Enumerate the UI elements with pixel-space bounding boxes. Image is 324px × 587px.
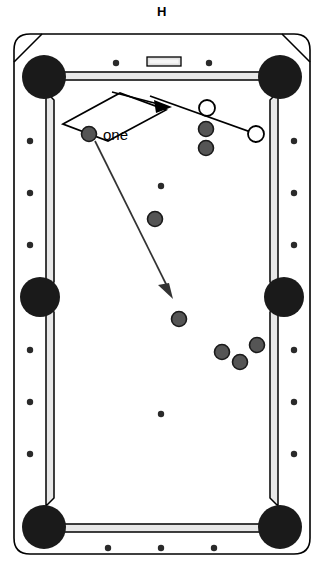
cushion-left-lower [46, 304, 54, 506]
rail-diamond [291, 242, 297, 248]
rail-diamond [206, 60, 212, 66]
bed-spot [158, 411, 164, 417]
ball-cluster-left[interactable] [215, 345, 230, 360]
cushion-top [50, 72, 274, 80]
rail-diamond [27, 347, 33, 353]
table-nameplate-inner [150, 60, 179, 64]
bottom-right-corner-pocket[interactable] [258, 505, 302, 549]
rail-diamond [27, 242, 33, 248]
rail-diamond [27, 451, 33, 457]
rail-diamond [27, 399, 33, 405]
cushion-left-upper [46, 92, 54, 290]
ball-object-lower[interactable] [199, 141, 214, 156]
rail-diamond [27, 138, 33, 144]
right-side-pocket[interactable] [264, 277, 304, 317]
cushion-right-upper [270, 92, 278, 290]
ball-one[interactable] [82, 127, 97, 142]
ghost-ball-contact [199, 100, 215, 116]
rail-diamond [291, 347, 297, 353]
rail-diamond [105, 545, 111, 551]
pool-diagram-root: H [0, 0, 324, 587]
cushion-bottom [50, 524, 274, 532]
rail-diamond [27, 190, 33, 196]
rail-diamond [211, 545, 217, 551]
left-side-pocket[interactable] [20, 277, 60, 317]
rail-diamond [291, 451, 297, 457]
ball-mid[interactable] [148, 212, 163, 227]
ball-cluster-right[interactable] [250, 338, 265, 353]
top-right-corner-pocket[interactable] [258, 55, 302, 99]
rail-diamond [113, 60, 119, 66]
cushion-right-lower [270, 304, 278, 506]
ghost-ball-cue [248, 126, 264, 142]
ball-object-upper[interactable] [199, 122, 214, 137]
rail-diamond [158, 545, 164, 551]
pool-table-diagram: one [0, 0, 324, 587]
bottom-left-corner-pocket[interactable] [22, 505, 66, 549]
ball-one-label: one [103, 126, 128, 143]
top-left-corner-pocket[interactable] [22, 55, 66, 99]
rail-diamond [291, 138, 297, 144]
bed-spot [158, 183, 164, 189]
table-bed [44, 72, 280, 516]
ball-cluster-mid[interactable] [233, 355, 248, 370]
rail-diamond [291, 399, 297, 405]
ball-center-low[interactable] [172, 312, 187, 327]
rail-diamond [291, 190, 297, 196]
